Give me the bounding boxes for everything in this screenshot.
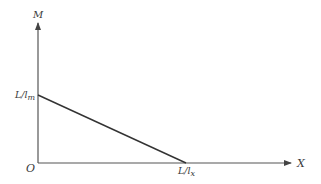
origin-label: O bbox=[26, 162, 35, 175]
budget-line-diagram: M X O L/lm L/lx bbox=[0, 0, 321, 184]
x-axis-label: X bbox=[296, 157, 306, 170]
x-intercept-sub: x bbox=[191, 169, 196, 178]
y-intercept-sub: m bbox=[28, 93, 36, 102]
m-axis-label: M bbox=[32, 9, 44, 20]
x-intercept-label: L/lx bbox=[177, 165, 196, 178]
constraint-line bbox=[38, 95, 186, 163]
y-intercept-base: L/l bbox=[14, 89, 28, 100]
y-intercept-label: L/lm bbox=[14, 89, 36, 102]
x-intercept-base: L/l bbox=[177, 165, 191, 176]
